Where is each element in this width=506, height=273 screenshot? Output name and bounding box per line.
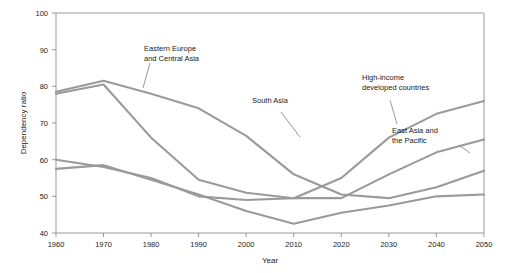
annotation-label-line: South Asia xyxy=(252,96,289,105)
annotation-label-line: Eastern Europe xyxy=(144,44,196,53)
annotation-label-line: and Central Asia xyxy=(144,54,200,63)
chart-background xyxy=(0,0,506,273)
y-tick-label: 50 xyxy=(40,192,48,201)
annotation-label-line: developed countries xyxy=(362,83,429,92)
y-tick-label: 40 xyxy=(40,229,48,238)
dependency-ratio-line-chart: 100 90 80 70 60 50 40 1960 1970 1980 199… xyxy=(0,0,506,273)
y-axis-title: Dependency ratio xyxy=(19,91,28,154)
chart-container: 100 90 80 70 60 50 40 1960 1970 1980 199… xyxy=(0,0,506,273)
y-tick-label: 80 xyxy=(40,82,48,91)
y-tick-label: 70 xyxy=(40,119,48,128)
y-tick-label: 90 xyxy=(40,46,48,55)
x-tick-label: 2050 xyxy=(476,240,493,249)
x-tick-label: 2030 xyxy=(380,240,397,249)
x-tick-label: 1980 xyxy=(143,240,160,249)
x-tick-label: 2010 xyxy=(285,240,302,249)
annotation-label-line: East Asia and xyxy=(392,126,438,135)
y-tick-label: 100 xyxy=(35,9,48,18)
x-tick-label: 2000 xyxy=(238,240,255,249)
annotation-eastern-europe: Eastern Europe and Central Asia xyxy=(144,44,200,63)
x-tick-label: 1960 xyxy=(48,240,65,249)
annotation-label-line: High-income xyxy=(362,73,404,82)
x-tick-label: 2040 xyxy=(428,240,445,249)
annotation-label-line: the Pacific xyxy=(392,136,427,145)
x-tick-label: 1990 xyxy=(190,240,207,249)
x-axis-title: Year xyxy=(262,256,279,265)
annotation-south-asia: South Asia xyxy=(252,96,289,105)
x-tick-label: 1970 xyxy=(95,240,112,249)
x-tick-label: 2020 xyxy=(333,240,350,249)
y-tick-label: 60 xyxy=(40,156,48,165)
